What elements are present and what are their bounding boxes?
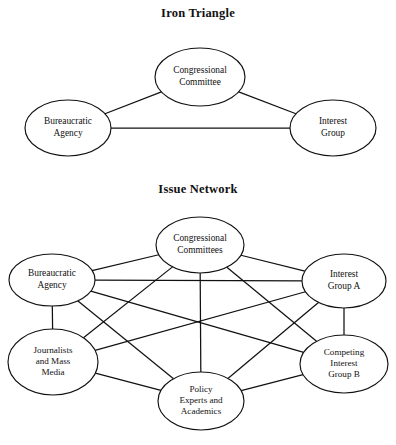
node-label-policy-experts-academics: Policy — [189, 384, 213, 394]
node-label-bureaucratic-agency-2: Agency — [37, 280, 66, 290]
node-interest-group-a[interactable]: InterestGroup A — [302, 254, 386, 308]
node-label-congressional-committees: Congressional — [173, 233, 227, 243]
node-label-competing-interest-group-b: Competing — [324, 347, 365, 357]
node-label-interest-group-a: Group A — [328, 281, 361, 291]
node-label-competing-interest-group-b: Interest — [330, 358, 358, 368]
node-bureaucratic-agency-2[interactable]: BureaucraticAgency — [9, 254, 95, 306]
node-policy-experts-academics[interactable]: PolicyExperts andAcademics — [158, 372, 244, 430]
node-label-competing-interest-group-b: Group B — [328, 369, 360, 379]
edge-competing-interest-group-b-to-policy-experts-academics — [241, 375, 303, 391]
node-label-bureaucratic-agency-2: Bureaucratic — [28, 268, 76, 278]
edge-journalists-mass-media-to-policy-experts-academics — [95, 373, 161, 390]
node-label-journalists-mass-media: Media — [41, 367, 64, 377]
edge-bureaucratic-agency-2-to-interest-group-a — [95, 280, 302, 281]
node-competing-interest-group-b[interactable]: CompetingInterestGroup B — [300, 335, 388, 393]
node-label-policy-experts-academics: Experts and — [179, 395, 223, 405]
node-label-interest-group-a: Interest — [330, 269, 359, 279]
node-label-congressional-committees: Committees — [177, 245, 223, 255]
node-label-journalists-mass-media: Journalists — [34, 345, 73, 355]
node-congressional-committees[interactable]: CongressionalCommittees — [156, 217, 244, 273]
node-journalists-mass-media[interactable]: Journalistsand MassMedia — [8, 329, 98, 395]
edge-congressional-committees-to-interest-group-a — [241, 255, 305, 271]
node-label-policy-experts-academics: Academics — [181, 406, 222, 416]
issue-network-diagram: CongressionalCommitteesBureaucraticAgenc… — [0, 0, 396, 445]
node-label-journalists-mass-media: and Mass — [36, 356, 71, 366]
edge-bureaucratic-agency-2-to-congressional-committees — [92, 255, 159, 271]
